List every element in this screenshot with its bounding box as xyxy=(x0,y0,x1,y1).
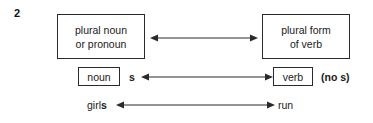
subject-predicate-agreement-arrow xyxy=(150,31,258,45)
plural-noun-box-line-2: or pronoun xyxy=(76,37,127,51)
verb-box: verb xyxy=(273,67,313,86)
noun-box-label: noun xyxy=(87,71,110,83)
example-subject-suffix: s xyxy=(101,99,107,111)
verb-no-s-note: (no s) xyxy=(321,71,350,83)
example-verb-run: run xyxy=(278,99,293,111)
plural-form-of-verb-box: plural form of verb xyxy=(262,14,350,59)
grammar-agreement-diagram: 2 plural noun or pronoun plural form of … xyxy=(0,0,373,123)
example-subject-stem: girl xyxy=(87,99,101,111)
noun-suffix-s-label: s xyxy=(129,71,135,83)
plural-noun-or-pronoun-box: plural noun or pronoun xyxy=(57,14,145,59)
example-subject-girls: girls xyxy=(87,99,107,111)
plural-verb-box-line-2: of verb xyxy=(290,37,322,51)
plural-noun-box-line-1: plural noun xyxy=(75,23,127,37)
noun-box: noun xyxy=(78,67,120,86)
item-number-label: 2 xyxy=(14,7,20,19)
verb-box-label: verb xyxy=(283,71,303,83)
noun-verb-agreement-arrow xyxy=(141,70,273,84)
example-agreement-arrow xyxy=(116,98,275,112)
plural-verb-box-line-1: plural form xyxy=(281,23,331,37)
